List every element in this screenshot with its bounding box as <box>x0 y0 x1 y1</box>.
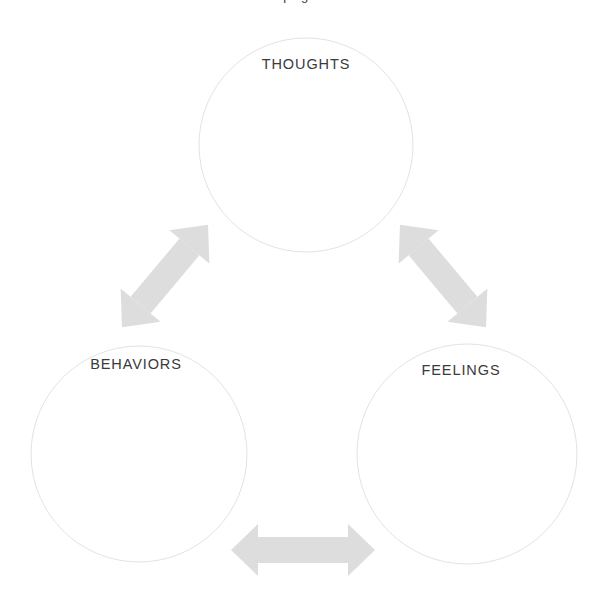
node-thoughts[interactable] <box>199 38 413 252</box>
arrow-head-right-bottom <box>348 524 375 576</box>
node-feelings[interactable] <box>357 344 577 564</box>
diagram-canvas: Coping Skills <box>0 0 610 605</box>
arrow-head-left-bottom <box>231 524 258 576</box>
arrow-shaft-bottom <box>258 537 348 563</box>
connector-thoughts-behaviors <box>102 183 228 344</box>
connector-behaviors-feelings <box>231 524 375 576</box>
node-behaviors[interactable] <box>31 346 247 562</box>
connector-thoughts-feelings <box>380 208 506 344</box>
arrow-shaft-right <box>409 239 478 314</box>
